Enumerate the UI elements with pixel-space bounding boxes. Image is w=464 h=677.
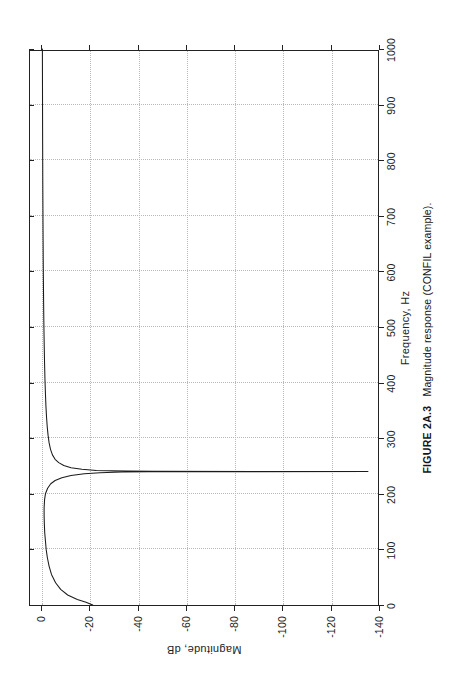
figure-page: 01002003004005006007008009001000 0-20-40… [0, 0, 464, 677]
y-axis-title: Magnitude, dB [167, 644, 242, 656]
curve-canvas [30, 49, 380, 605]
x-axis-tick [379, 160, 384, 161]
y-axis-tick [138, 606, 139, 611]
x-axis-tick-top [29, 438, 34, 439]
y-axis-tick-right [138, 45, 139, 50]
figure-caption-text: Magnitude response (CONFIL example). [421, 202, 433, 396]
x-axis-tick-top [29, 327, 34, 328]
y-axis-tick [186, 606, 187, 611]
y-tick-label: -60 [180, 616, 192, 632]
x-axis-tick [379, 105, 384, 106]
y-axis-tick [282, 606, 283, 611]
plot-wrapper: 01002003004005006007008009001000 0-20-40… [29, 50, 379, 606]
x-tick-label: 1000 [385, 38, 397, 62]
plot-area [29, 50, 379, 606]
figure-caption: FIGURE 2A.3Magnitude response (CONFIL ex… [421, 18, 433, 658]
y-tick-label: -80 [228, 616, 240, 632]
x-tick-label: 100 [385, 541, 397, 559]
magnitude-response-curve [42, 49, 368, 605]
y-axis-tick-right [282, 45, 283, 50]
y-axis-tick [89, 606, 90, 611]
x-axis-tick-top [29, 494, 34, 495]
x-axis-tick [379, 494, 384, 495]
y-tick-label: -40 [132, 616, 144, 632]
x-axis-tick [379, 271, 384, 272]
x-tick-label: 600 [385, 263, 397, 281]
x-tick-label: 700 [385, 208, 397, 226]
x-axis-tick [379, 549, 384, 550]
y-tick-label: 0 [35, 616, 47, 622]
x-tick-label: 900 [385, 97, 397, 115]
x-tick-label: 200 [385, 486, 397, 504]
x-axis-tick-top [29, 49, 34, 50]
x-axis-tick [379, 216, 384, 217]
x-axis-tick-top [29, 216, 34, 217]
x-axis-tick-top [29, 160, 34, 161]
y-tick-label: -140 [373, 616, 385, 638]
y-tick-label: -100 [276, 616, 288, 638]
y-axis-tick [379, 606, 380, 611]
y-axis-tick-right [41, 45, 42, 50]
y-tick-label: -120 [325, 616, 337, 638]
y-axis-tick-right [234, 45, 235, 50]
y-axis-tick-right [186, 45, 187, 50]
x-axis-tick-top [29, 271, 34, 272]
x-axis-tick [379, 327, 384, 328]
y-axis-tick-right [89, 45, 90, 50]
x-tick-label: 800 [385, 152, 397, 170]
figure-caption-number: FIGURE 2A.3 [421, 406, 433, 474]
x-axis-tick-top [29, 549, 34, 550]
y-axis-tick [41, 606, 42, 611]
y-axis-tick [234, 606, 235, 611]
x-tick-label: 0 [385, 603, 397, 609]
x-axis-tick-top [29, 605, 34, 606]
x-tick-label: 500 [385, 319, 397, 337]
y-axis-tick-right [379, 45, 380, 50]
x-axis-tick [379, 383, 384, 384]
x-tick-label: 400 [385, 375, 397, 393]
x-axis-tick-top [29, 105, 34, 106]
x-axis-tick [379, 438, 384, 439]
y-axis-tick-right [331, 45, 332, 50]
figure-block: 01002003004005006007008009001000 0-20-40… [17, 18, 447, 658]
rotated-figure-frame: 01002003004005006007008009001000 0-20-40… [17, 18, 447, 658]
x-axis-tick-top [29, 383, 34, 384]
x-tick-label: 300 [385, 430, 397, 448]
x-axis-title: Frequency, Hz [399, 50, 411, 606]
y-axis-tick [331, 606, 332, 611]
y-tick-label: -20 [83, 616, 95, 632]
